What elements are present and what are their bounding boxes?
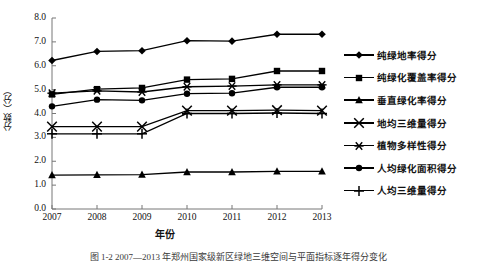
x-tick-label: 2009	[121, 213, 163, 223]
x-tick-label: 2007	[31, 213, 73, 223]
x-tick-label: 2012	[256, 213, 298, 223]
data-series-layer	[47, 30, 327, 178]
y-tick-label: 7.0	[16, 37, 46, 47]
legend-item: 地均三维量得分	[344, 112, 477, 135]
legend-item: 纯绿地率得分	[344, 44, 477, 67]
y-tick-label: 6.0	[16, 61, 46, 71]
data-series	[47, 108, 327, 139]
legend-item-label: 垂直绿化率得分	[374, 95, 447, 106]
triangle-icon	[344, 93, 374, 107]
data-series	[48, 30, 326, 64]
cross-x-icon	[344, 116, 374, 130]
legend-item-label: 植物多样性得分	[374, 140, 447, 151]
figure-caption: 图 1-2 2007—2013 年郑州国家级新区绿地三维空间与平面指标逐年得分变…	[0, 252, 477, 263]
x-tick-label: 2008	[76, 213, 118, 223]
data-series	[49, 84, 325, 110]
data-series	[48, 167, 326, 178]
x-tick-label: 2013	[301, 213, 343, 223]
y-tick-label: 3.0	[16, 132, 46, 142]
y-tick-label: 5.0	[16, 85, 46, 95]
x-axis-title: 年份	[0, 226, 330, 241]
plus-icon	[344, 184, 374, 198]
legend-item: 垂直绿化率得分	[344, 89, 477, 112]
legend-item-label: 纯绿地率得分	[374, 50, 437, 61]
legend-item: 人均绿化面积得分	[344, 157, 477, 180]
legend-item-label: 地均三维量得分	[374, 118, 447, 129]
y-tick-label: 1.0	[16, 180, 46, 190]
legend-item: 植物多样性得分	[344, 134, 477, 157]
legend-item-label: 人均绿化面积得分	[374, 163, 457, 174]
legend-item: 人均三维量得分	[344, 180, 477, 203]
asterisk-icon	[344, 139, 374, 153]
x-tick-label: 2010	[166, 213, 208, 223]
legend-item-label: 纯绿化覆盖率得分	[374, 72, 457, 83]
legend-item-label: 人均三维量得分	[374, 185, 447, 196]
y-tick-label: 4.0	[16, 109, 46, 119]
legend-item: 纯绿化覆盖率得分	[344, 67, 477, 90]
x-tick-label: 2011	[211, 213, 253, 223]
square-icon	[344, 71, 374, 85]
y-tick-label: 8.0	[16, 13, 46, 23]
y-tick-label: 2.0	[16, 156, 46, 166]
circle-icon	[344, 161, 374, 175]
figure-container: 分数（分） 0.01.02.03.04.05.06.07.08.0 200720…	[0, 0, 477, 264]
chart-legend: 纯绿地率得分纯绿化覆盖率得分垂直绿化率得分地均三维量得分植物多样性得分人均绿化面…	[344, 44, 477, 202]
diamond-icon	[344, 48, 374, 62]
